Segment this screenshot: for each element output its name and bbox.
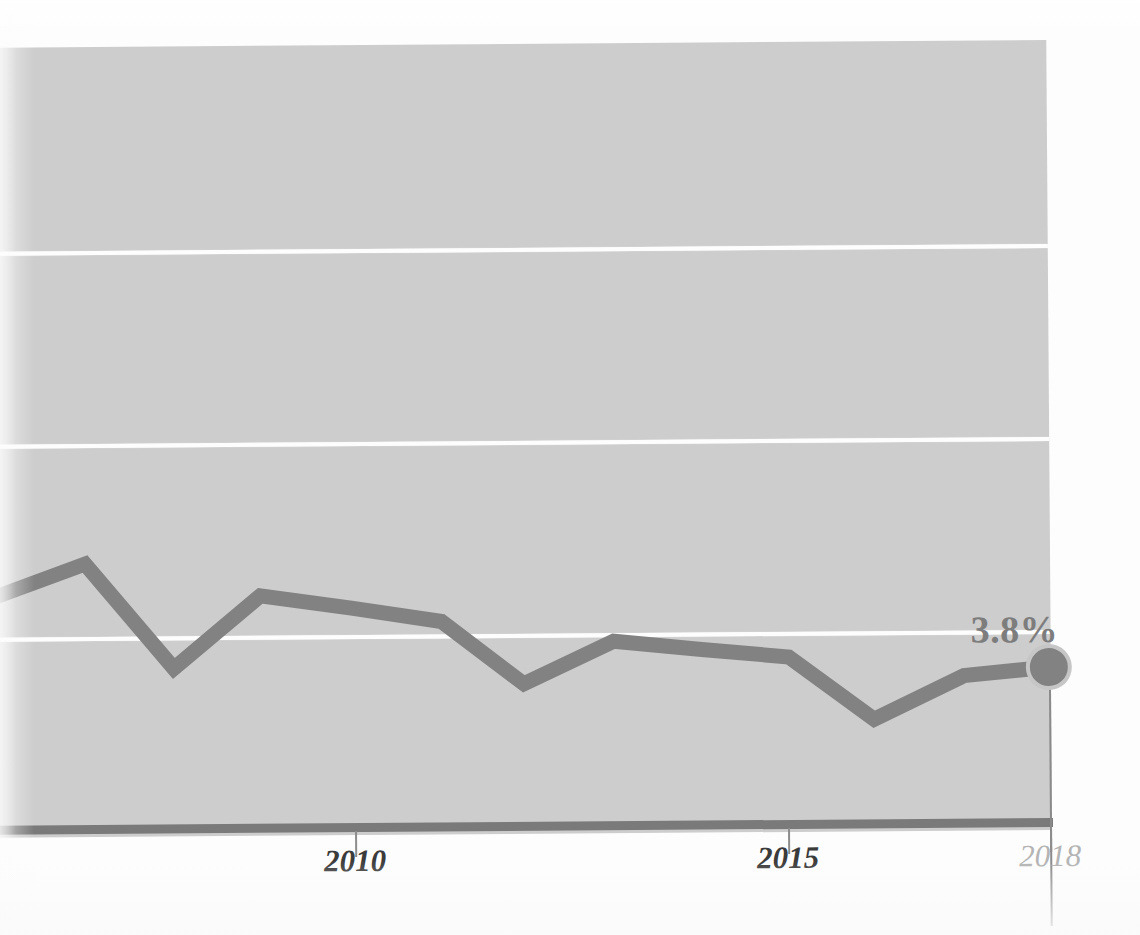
x-tick-label-2010: 2010 [324,843,386,879]
endpoint-marker [1030,648,1068,686]
series-line-unemployment [0,557,1049,726]
series-layer [0,0,1140,935]
series-value-label: 3.8% [970,607,1058,652]
scanned-page: 3.8% 2010 2015 2018 [0,0,1140,935]
x-tick-label-2018: 2018 [1019,838,1081,874]
chart-figure: 3.8% 2010 2015 2018 [0,0,1140,935]
x-tick-label-2015: 2015 [757,840,819,876]
